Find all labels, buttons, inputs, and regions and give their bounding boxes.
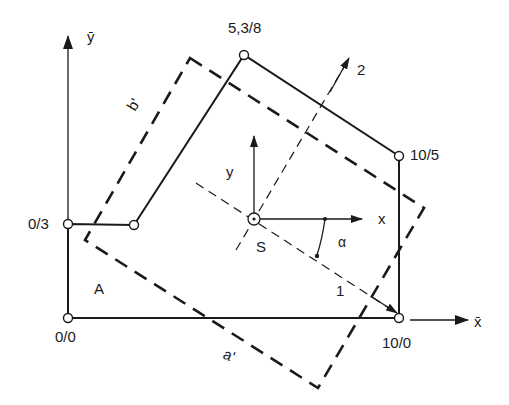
local-y-label: y xyxy=(226,163,234,180)
vertex-label-10-5: 10/5 xyxy=(410,146,439,163)
cross-section-diagram: ȳ x̄ 0/0 0/3 5,3/8 10/5 10/0 A S x y 2 1… xyxy=(0,0,509,405)
vertex-0-0 xyxy=(64,314,73,323)
angle-arc xyxy=(317,219,325,255)
vertex-0-3 xyxy=(64,220,73,229)
angle-label: α xyxy=(338,234,346,250)
local-x-label: x xyxy=(378,210,386,227)
side-a-label: a' xyxy=(221,345,238,365)
vertex-10-0 xyxy=(395,314,404,323)
global-x-label: x̄ xyxy=(474,313,482,330)
centroid-label: S xyxy=(256,238,266,255)
vertex-10-5 xyxy=(395,152,404,161)
angle-arc-end xyxy=(315,254,319,258)
principal-axis-1-arrow xyxy=(372,297,397,313)
centroid-dot xyxy=(252,217,255,220)
principal-2-label: 2 xyxy=(357,61,365,78)
section-outline xyxy=(68,55,399,318)
vertex-5-3-8 xyxy=(240,51,249,60)
area-label: A xyxy=(94,280,104,297)
principal-1-label: 1 xyxy=(336,282,344,299)
angle-arc-tick xyxy=(323,217,327,221)
vertex-inner xyxy=(130,221,139,230)
vertex-label-0-3: 0/3 xyxy=(28,215,49,232)
vertex-label-0-0: 0/0 xyxy=(55,328,76,345)
global-y-label: ȳ xyxy=(87,28,95,45)
side-b-label: b' xyxy=(123,95,143,114)
vertex-label-5-3-8: 5,3/8 xyxy=(228,19,261,36)
diagram-svg: ȳ x̄ 0/0 0/3 5,3/8 10/5 10/0 A S x y 2 1… xyxy=(0,0,509,405)
principal-axis-1 xyxy=(196,183,395,312)
vertex-label-10-0: 10/0 xyxy=(382,334,411,351)
principal-axis-2-arrow xyxy=(330,58,349,92)
